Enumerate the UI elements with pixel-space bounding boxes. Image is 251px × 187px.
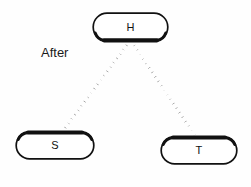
edge-h-s [62, 41, 130, 132]
node-s[interactable]: S [15, 131, 95, 160]
node-h[interactable]: H [92, 12, 169, 42]
edge-h-t [131, 41, 196, 137]
diagram-canvas: H S T After [0, 0, 251, 187]
node-h-label: H [126, 22, 134, 33]
caption-after: After [41, 46, 68, 59]
node-t-label: T [196, 145, 203, 156]
node-t[interactable]: T [160, 136, 238, 165]
node-s-label: S [51, 140, 59, 151]
